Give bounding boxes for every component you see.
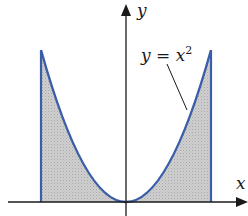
x-axis-label: x — [236, 175, 246, 192]
y-axis-arrow-icon — [121, 4, 131, 16]
parabola-figure — [0, 0, 248, 216]
curve-equation-lhs: y = x — [141, 45, 185, 65]
annotation-leader-line — [167, 64, 187, 110]
x-axis-arrow-icon — [236, 197, 248, 207]
curve-equation-exponent: 2 — [185, 44, 192, 57]
curve-equation-label: y = x2 — [141, 45, 192, 64]
y-axis-label: y — [137, 2, 147, 19]
diagram-canvas: y x y = x2 — [0, 0, 248, 216]
